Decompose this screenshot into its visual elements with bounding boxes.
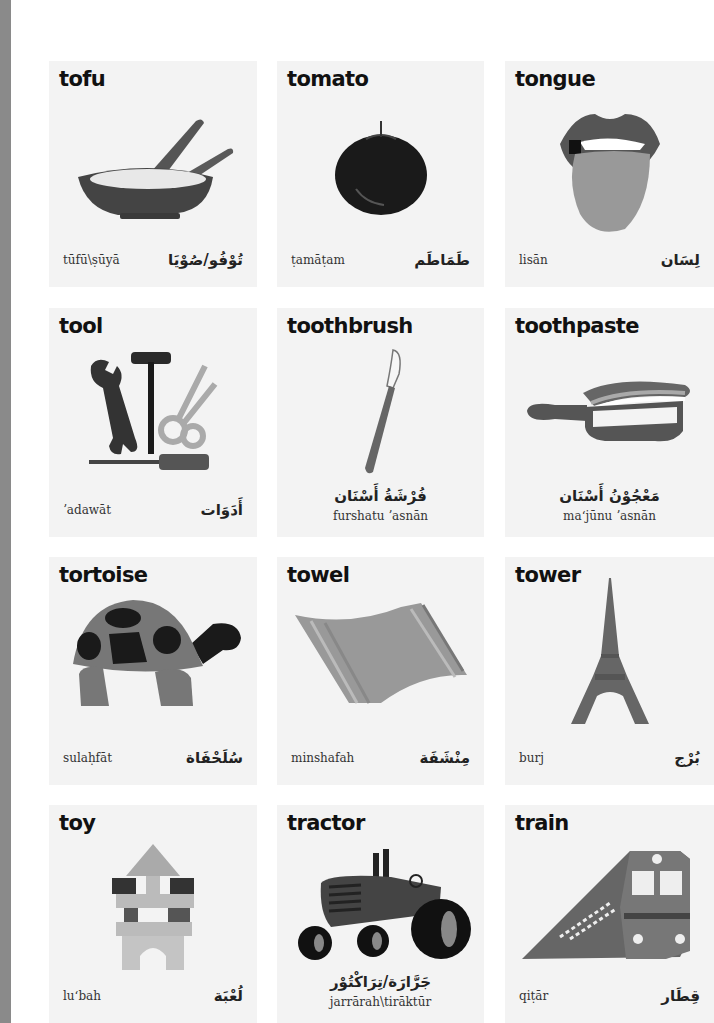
card-toy: toy luʻbah لُعْبَة xyxy=(49,805,257,1023)
english-word: tortoise xyxy=(59,563,147,587)
arabic-word: مِنْشَفَة xyxy=(419,749,470,767)
card-tower: tower burj بُرْج xyxy=(505,557,714,785)
arabic-word: لُعْبَة xyxy=(214,987,243,1005)
card-tofu: tofu tūfū\ṣūyā تُوْفُو/صُوْيَا xyxy=(49,61,257,287)
transliteration: luʻbah xyxy=(63,989,101,1003)
arabic-word: جَرَّارَة/تِرَاكْتُوْر xyxy=(277,973,484,991)
arabic-word: أَدَوَات xyxy=(201,501,243,519)
english-word: tofu xyxy=(59,67,105,91)
arabic-word: طَمَاطَم xyxy=(414,251,470,269)
english-word: tomato xyxy=(287,67,368,91)
transliteration: lisān xyxy=(519,253,548,267)
transliteration: maʻjūnu ʼasnān xyxy=(505,509,714,523)
english-word: toothbrush xyxy=(287,314,413,338)
english-word: towel xyxy=(287,563,349,587)
transliteration: sulaḥfāt xyxy=(63,751,112,765)
transliteration: ʼadawāt xyxy=(63,503,111,517)
english-word: train xyxy=(515,811,569,835)
tortoise-icon xyxy=(49,593,257,715)
train-icon xyxy=(505,841,714,973)
tools-icon xyxy=(49,344,257,491)
page-spine-shadow xyxy=(0,0,11,1023)
arabic-word: تُوْفُو/صُوْيَا xyxy=(168,251,243,269)
transliteration: burj xyxy=(519,751,544,765)
arabic-word: لِسَان xyxy=(661,251,700,269)
arabic-word: فُرْشَةُ أَسْنَان xyxy=(277,487,484,505)
towel-icon xyxy=(277,593,484,715)
arabic-word: مَعْجُوْنُ أَسْنَان xyxy=(505,487,714,505)
english-word: toy xyxy=(59,811,95,835)
card-toothbrush: toothbrush فُرْشَةُ أَسْنَان furshatu ʼa… xyxy=(277,308,484,537)
toy-blocks-icon xyxy=(49,841,257,973)
transliteration: qiṭār xyxy=(519,989,548,1003)
arabic-word: قِطَار xyxy=(661,987,700,1005)
card-toothpaste: toothpaste مَعْجُوْنُ أَسْنَان maʻjūnu ʼ… xyxy=(505,308,714,537)
toothpaste-icon xyxy=(505,344,714,477)
tractor-icon xyxy=(277,841,484,965)
card-tool: tool ʼadawāt أَدَوَات xyxy=(49,308,257,537)
tofu-bowl-icon xyxy=(49,97,257,241)
tongue-icon xyxy=(505,97,714,241)
transliteration: minshafah xyxy=(291,751,354,765)
tomato-icon xyxy=(277,97,484,241)
eiffel-tower-icon xyxy=(505,577,714,725)
transliteration: ṭamāṭam xyxy=(291,253,345,267)
english-word: toothpaste xyxy=(515,314,639,338)
arabic-word: سُلَحْفَاة xyxy=(186,749,243,767)
card-tomato: tomato ṭamāṭam طَمَاطَم xyxy=(277,61,484,287)
english-word: tractor xyxy=(287,811,365,835)
arabic-word: بُرْج xyxy=(674,749,700,767)
english-word: tongue xyxy=(515,67,595,91)
card-towel: towel minshafah مِنْشَفَة xyxy=(277,557,484,785)
card-tractor: tractor جَرَّارَة/تِرَاكْتُوْر jarrārah\… xyxy=(277,805,484,1023)
card-tongue: tongue lisān لِسَان xyxy=(505,61,714,287)
transliteration: jarrārah\tirāktūr xyxy=(277,995,484,1009)
english-word: tool xyxy=(59,314,103,338)
card-tortoise: tortoise sulaḥfāt سُلَحْفَاة xyxy=(49,557,257,785)
transliteration: furshatu ʼasnān xyxy=(277,509,484,523)
card-train: train qiṭār قِطَار xyxy=(505,805,714,1023)
toothbrush-icon xyxy=(277,344,484,477)
transliteration: tūfū\ṣūyā xyxy=(63,253,120,267)
